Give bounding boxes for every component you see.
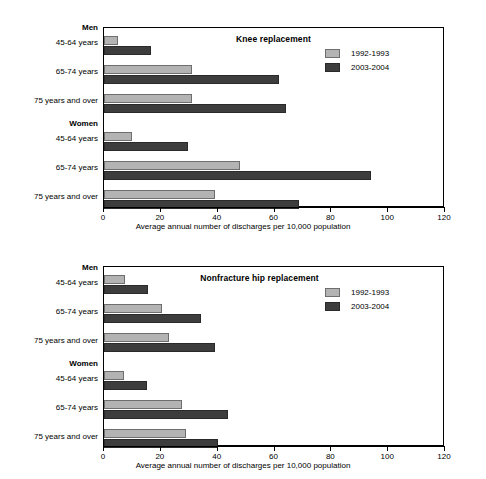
bar-top-row2-2003-2004 [104, 104, 286, 113]
x-tick-label-100: 100 [380, 213, 393, 222]
bar-bottom-row4-2003-2004 [104, 410, 228, 419]
x-axis-top: 020406080100120 [103, 207, 444, 208]
y-axis-label-bottom-6: 65-74 years [56, 403, 98, 413]
y-axis-label-top-7: 75 years and over [34, 192, 98, 202]
y-axis-label-top-4: Women [69, 119, 98, 129]
x-tick-60 [274, 207, 275, 212]
bar-top-row4-1992-1993 [104, 161, 240, 170]
bar-top-row3-1992-1993 [104, 132, 132, 141]
x-tick-60 [274, 446, 275, 451]
y-axis-label-top-1: 45-64 years [56, 38, 98, 48]
x-tick-label-80: 80 [326, 213, 335, 222]
plot-area-bottom: Nonfracture hip replacement 1992-1993200… [103, 266, 444, 446]
y-axis-label-top-2: 65-74 years [56, 67, 98, 77]
bar-bottom-row5-1992-1993 [104, 429, 186, 438]
x-tick-label-40: 40 [212, 213, 221, 222]
x-tick-100 [387, 446, 388, 451]
bar-bottom-row2-1992-1993 [104, 333, 169, 342]
bar-top-row5-1992-1993 [104, 190, 215, 199]
bar-bottom-row3-2003-2004 [104, 381, 147, 390]
x-tick-label-0: 0 [101, 452, 105, 461]
x-tick-label-120: 120 [437, 213, 450, 222]
y-axis-label-top-5: 45-64 years [56, 134, 98, 144]
x-axis-title-bottom: Average annual number of discharges per … [0, 461, 486, 470]
x-tick-40 [217, 207, 218, 212]
bar-bottom-row0-1992-1993 [104, 275, 125, 284]
plot-area-top: Knee replacement 1992-19932003-2004 [103, 27, 444, 207]
x-axis-title-top: Average annual number of discharges per … [0, 222, 486, 231]
bar-bottom-row0-2003-2004 [104, 285, 148, 294]
y-axis-label-top-0: Men [82, 23, 98, 33]
figure-container: Men45-64 years65-74 years75 years and ov… [0, 0, 486, 479]
x-tick-80 [330, 207, 331, 212]
x-tick-label-0: 0 [101, 213, 105, 222]
bar-top-row4-2003-2004 [104, 171, 371, 180]
y-axis-label-bottom-5: 45-64 years [56, 374, 98, 384]
bar-top-row3-2003-2004 [104, 142, 188, 151]
panel-knee-replacement: Men45-64 years65-74 years75 years and ov… [0, 0, 486, 239]
bar-top-row0-2003-2004 [104, 46, 151, 55]
x-tick-label-40: 40 [212, 452, 221, 461]
bar-top-row0-1992-1993 [104, 36, 118, 45]
x-tick-20 [160, 207, 161, 212]
y-axis-label-top-3: 75 years and over [34, 96, 98, 106]
x-tick-label-60: 60 [269, 452, 278, 461]
y-axis-labels-top: Men45-64 years65-74 years75 years and ov… [0, 27, 101, 207]
x-tick-20 [160, 446, 161, 451]
x-tick-label-60: 60 [269, 213, 278, 222]
x-tick-label-80: 80 [326, 452, 335, 461]
x-tick-label-20: 20 [155, 452, 164, 461]
x-axis-bottom: 020406080100120 [103, 446, 444, 447]
y-axis-label-bottom-2: 65-74 years [56, 307, 98, 317]
bar-top-row1-2003-2004 [104, 75, 279, 84]
x-tick-0 [103, 207, 104, 212]
x-tick-0 [103, 446, 104, 451]
x-tick-120 [444, 446, 445, 451]
bar-bottom-row4-1992-1993 [104, 400, 182, 409]
bar-top-row2-1992-1993 [104, 94, 192, 103]
x-tick-label-100: 100 [380, 452, 393, 461]
bar-bottom-row1-1992-1993 [104, 304, 162, 313]
bar-bottom-row2-2003-2004 [104, 343, 215, 352]
y-axis-labels-bottom: Men45-64 years65-74 years75 years and ov… [0, 267, 101, 447]
bar-top-row1-1992-1993 [104, 65, 192, 74]
bars-container-bottom [104, 267, 443, 445]
x-tick-40 [217, 446, 218, 451]
bar-bottom-row1-2003-2004 [104, 314, 201, 323]
x-tick-label-20: 20 [155, 213, 164, 222]
x-tick-100 [387, 207, 388, 212]
bar-bottom-row3-1992-1993 [104, 371, 124, 380]
x-tick-label-120: 120 [437, 452, 450, 461]
y-axis-label-bottom-7: 75 years and over [34, 432, 98, 442]
y-axis-label-bottom-4: Women [69, 359, 98, 369]
y-axis-label-bottom-0: Men [82, 263, 98, 273]
y-axis-label-bottom-3: 75 years and over [34, 336, 98, 346]
x-tick-120 [444, 207, 445, 212]
bars-container-top [104, 28, 443, 206]
y-axis-label-top-6: 65-74 years [56, 163, 98, 173]
x-tick-80 [330, 446, 331, 451]
panel-nonfracture-hip-replacement: Men45-64 years65-74 years75 years and ov… [0, 240, 486, 479]
